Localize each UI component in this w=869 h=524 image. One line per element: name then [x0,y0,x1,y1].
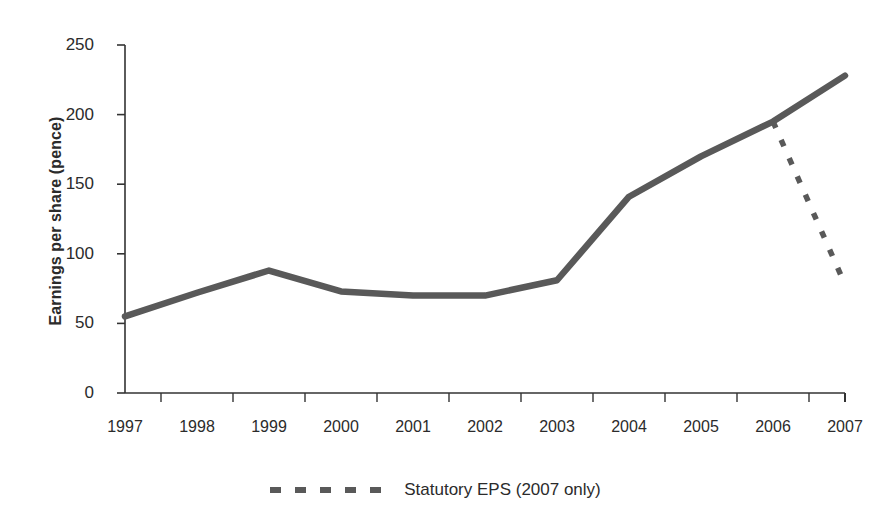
x-axis-tick-label: 1998 [162,418,232,436]
x-axis-tick-label: 2005 [666,418,736,436]
y-axis-tick-label: 250 [48,35,94,55]
legend-entry-label: Statutory EPS (2007 only) [404,480,601,500]
x-axis-tick-label: 1999 [234,418,304,436]
x-axis-ticks [161,393,845,402]
y-axis-tick-labels: 050100150200250 [42,0,94,524]
x-axis-tick-label: 2004 [594,418,664,436]
y-axis-tick-label: 200 [48,105,94,125]
chart-figure: Earnings per share (pence) 0501001502002… [0,0,869,524]
y-axis-tick-label: 0 [48,383,94,403]
y-axis-ticks [117,45,125,393]
x-axis-tick-label: 2002 [450,418,520,436]
x-axis-tick-label: 2001 [378,418,448,436]
x-axis-tick-label: 1997 [90,418,160,436]
legend-dashed-line-swatch [268,483,386,497]
plot-area [0,0,869,524]
x-axis-tick-label: 2000 [306,418,376,436]
y-axis-tick-label: 150 [48,174,94,194]
series-line [125,76,845,317]
axis-lines [125,45,845,393]
chart-legend: Statutory EPS (2007 only) [0,480,869,500]
y-axis-tick-label: 100 [48,244,94,264]
x-axis-tick-label: 2007 [810,418,869,436]
y-axis-tick-label: 50 [48,313,94,333]
x-axis-tick-label: 2006 [738,418,808,436]
x-axis-tick-label: 2003 [522,418,592,436]
series-lines [125,76,845,317]
series-line [773,122,845,285]
